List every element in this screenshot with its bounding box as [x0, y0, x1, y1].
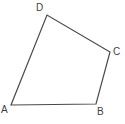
vertex-label-b: B	[97, 107, 104, 117]
quadrilateral-outline	[11, 15, 110, 105]
vertex-label-d: D	[36, 3, 43, 13]
vertex-label-c: C	[113, 47, 120, 57]
quadrilateral-drawing	[0, 0, 125, 124]
vertex-label-a: A	[1, 105, 8, 115]
geometry-figure: A B C D	[0, 0, 125, 124]
